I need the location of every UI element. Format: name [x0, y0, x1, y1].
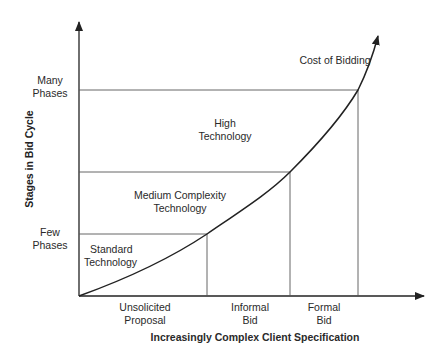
y-tick-few-line2: Phases — [24, 239, 76, 252]
region-standard-line1: Standard — [84, 243, 144, 256]
x-cat-informal: Informal Bid — [220, 301, 280, 327]
x-cat-unsolicited: Unsolicited Proposal — [110, 301, 180, 327]
region-high-line2: Technology — [170, 130, 280, 143]
diagram-canvas — [0, 0, 446, 348]
y-tick-few-line1: Few — [24, 226, 76, 239]
x-cat-unsolicited-line2: Proposal — [110, 314, 180, 327]
y-axis-label: Stages in Bid Cycle — [23, 104, 35, 214]
region-medium-line2: Technology — [120, 202, 240, 215]
y-tick-many: Many Phases — [24, 74, 76, 100]
region-high-line1: High — [170, 117, 280, 130]
x-cat-unsolicited-line1: Unsolicited — [110, 301, 180, 314]
x-cat-formal-line2: Bid — [294, 314, 354, 327]
region-medium-line1: Medium Complexity — [120, 189, 240, 202]
x-axis-label: Increasingly Complex Client Specificatio… — [130, 331, 380, 344]
y-tick-many-line1: Many — [24, 74, 76, 87]
curve-label: Cost of Bidding — [290, 54, 380, 67]
x-cat-informal-line1: Informal — [220, 301, 280, 314]
region-high: High Technology — [170, 117, 280, 143]
y-tick-few: Few Phases — [24, 226, 76, 252]
x-cat-formal: Formal Bid — [294, 301, 354, 327]
region-standard-line2: Technology — [84, 256, 144, 269]
region-medium: Medium Complexity Technology — [120, 189, 240, 215]
region-standard: Standard Technology — [84, 243, 144, 269]
x-cat-informal-line2: Bid — [220, 314, 280, 327]
x-cat-formal-line1: Formal — [294, 301, 354, 314]
y-tick-many-line2: Phases — [24, 87, 76, 100]
